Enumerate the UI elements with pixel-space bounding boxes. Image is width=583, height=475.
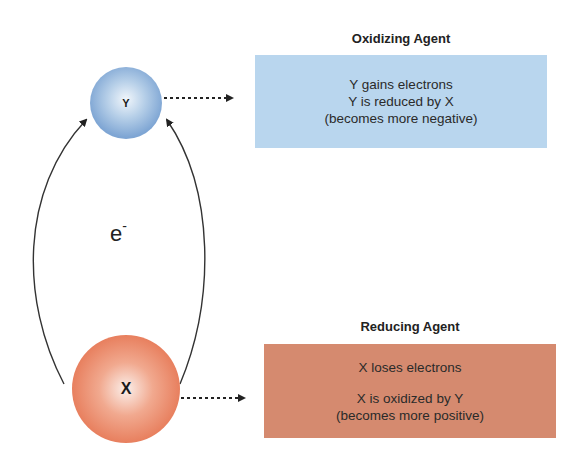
reducing-line-2: X is oxidized by Y (357, 390, 463, 407)
reducing-line-3: (becomes more positive) (336, 407, 484, 424)
curved-arrow-right-icon (167, 120, 205, 384)
oxidizing-agent-heading: Oxidizing Agent (255, 31, 547, 46)
atom-y-label: Y (122, 97, 129, 109)
electron-symbol: e (110, 221, 122, 246)
electron-charge: - (122, 218, 127, 234)
atom-y: Y (90, 67, 162, 139)
atom-x: X (72, 335, 180, 443)
oxidizing-line-2: Y is reduced by X (348, 93, 454, 110)
reducing-line-1: X loses electrons (359, 359, 462, 376)
reducing-agent-heading: Reducing Agent (264, 319, 556, 334)
reducing-agent-box: X loses electrons X is oxidized by Y (be… (264, 344, 556, 438)
curved-arrow-left-icon (33, 120, 86, 384)
oxidizing-agent-box: Y gains electrons Y is reduced by X (bec… (255, 55, 547, 148)
atom-x-label: X (121, 380, 132, 398)
oxidizing-line-1: Y gains electrons (349, 76, 452, 93)
oxidizing-line-3: (becomes more negative) (324, 110, 477, 127)
electron-label: e- (110, 220, 127, 247)
